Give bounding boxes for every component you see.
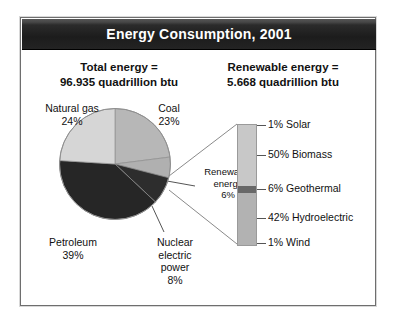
headline-renewable-line2: 5.668 quadrillion btu: [203, 75, 363, 90]
bar-label-wind: 1% Wind: [268, 236, 310, 248]
leader-line-renewable: [167, 181, 195, 186]
bar-tick-geothermal: [257, 189, 266, 190]
pie-label-petroleum-value: 39%: [31, 249, 115, 262]
bar-label-solar: 1% Solar: [268, 118, 311, 130]
pie-label-petroleum: Petroleum 39%: [31, 236, 115, 261]
bar-tick-wind: [257, 243, 266, 244]
pie-label-natural-gas-name: Natural gas: [29, 102, 115, 115]
bar-label-biomass: 50% Biomass: [268, 148, 332, 160]
bar-tick-biomass: [257, 155, 266, 156]
pie-label-petroleum-name: Petroleum: [31, 236, 115, 249]
headline-total-line1: Total energy =: [39, 60, 199, 75]
page-title: Energy Consumption, 2001: [106, 26, 291, 42]
headline-total-energy: Total energy = 96.935 quadrillion btu: [39, 60, 199, 90]
pie-label-nuclear-line1: Nuclear: [147, 236, 203, 249]
pie-label-coal-name: Coal: [145, 102, 193, 115]
bar-tick-hydroelectric: [257, 218, 266, 219]
bar-segment-wind: [238, 244, 256, 245]
headline-renewable-energy: Renewable energy = 5.668 quadrillion btu: [203, 60, 363, 90]
pie-label-nuclear-value: 8%: [147, 274, 203, 287]
headline-total-line2: 96.935 quadrillion btu: [39, 75, 199, 90]
pie-label-natural-gas-value: 24%: [29, 115, 115, 128]
renewable-stacked-bar: [237, 124, 257, 246]
pie-label-nuclear-electric-power: Nuclear electric power 8%: [147, 236, 203, 286]
bar-label-geothermal: 6% Geothermal: [268, 182, 341, 194]
bar-tick-solar: [257, 125, 266, 126]
figure-frame: Energy Consumption, 2001 Total energy = …: [20, 17, 376, 306]
pie-label-coal: Coal 23%: [145, 102, 193, 127]
chart-title-bar: Energy Consumption, 2001: [22, 19, 376, 50]
bar-label-hydroelectric: 42% Hydroelectric: [268, 211, 353, 223]
bar-segment-geothermal: [238, 186, 256, 193]
headline-renewable-line1: Renewable energy =: [203, 60, 363, 75]
pie-label-nuclear-line2: electric: [147, 249, 203, 262]
bar-segment-hydroelectric: [238, 193, 256, 243]
pie-label-nuclear-line3: power: [147, 261, 203, 274]
bar-segment-biomass: [238, 126, 256, 186]
pie-label-natural-gas: Natural gas 24%: [29, 102, 115, 127]
pie-label-coal-value: 23%: [145, 115, 193, 128]
